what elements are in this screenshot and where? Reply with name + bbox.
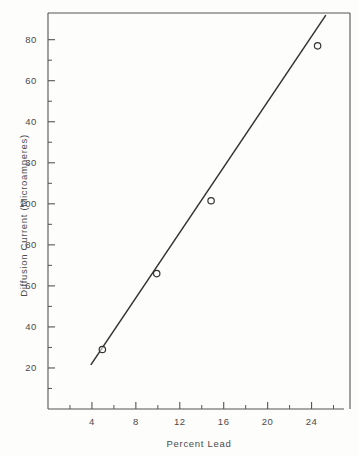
x-tick-label: 8 — [116, 416, 156, 427]
y-tick-label: 20 — [0, 362, 37, 373]
x-tick-label: 20 — [248, 416, 288, 427]
x-tick-label: 16 — [204, 416, 244, 427]
plot-frame — [48, 13, 350, 409]
x-tick-label: 12 — [160, 416, 200, 427]
y-axis-major-ticks — [48, 40, 55, 368]
y-tick-label: 40 — [0, 321, 37, 332]
y-tick-label: 60 — [0, 75, 37, 86]
plot-canvas — [0, 0, 359, 456]
y-axis-minor-ticks — [48, 60, 52, 388]
x-axis-minor-ticks — [70, 405, 334, 409]
calibration-line — [91, 15, 326, 365]
y-tick-label: 80 — [0, 34, 37, 45]
x-tick-label: 24 — [292, 416, 332, 427]
x-tick-label: 4 — [72, 416, 112, 427]
x-axis-title: Percent Lead — [48, 438, 350, 449]
y-axis-title: Diffusion Current (Microamperes) — [18, 111, 29, 321]
chart-figure: 8060403010080604020 4812162024 Diffusion… — [0, 0, 359, 456]
data-point-markers — [99, 43, 321, 353]
